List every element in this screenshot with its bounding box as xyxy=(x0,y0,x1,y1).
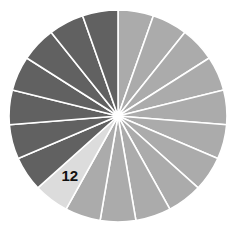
pie-chart: 12 xyxy=(0,0,236,227)
pie-labels: 12 xyxy=(61,167,78,184)
pie-slices xyxy=(9,10,227,222)
slice-label: 12 xyxy=(61,167,78,184)
pie-center xyxy=(115,113,121,119)
